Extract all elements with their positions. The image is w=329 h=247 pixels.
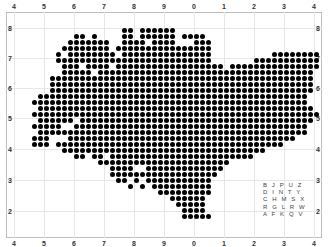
- map-dot: [152, 166, 157, 171]
- map-dot: [98, 76, 103, 81]
- map-dot: [122, 94, 127, 99]
- map-dot: [92, 40, 97, 45]
- map-dot: [188, 76, 193, 81]
- map-dot: [218, 148, 223, 153]
- left-axis-label: 7: [8, 55, 12, 62]
- map-dot: [134, 52, 139, 57]
- map-dot: [128, 160, 133, 165]
- left-axis-label: 5: [8, 115, 12, 122]
- map-dot: [194, 202, 199, 207]
- map-dot: [50, 106, 55, 111]
- map-dot: [116, 172, 121, 177]
- map-dot: [218, 82, 223, 87]
- top-axis-label: 2: [252, 3, 256, 10]
- map-dot: [182, 172, 187, 177]
- map-dot: [140, 106, 145, 111]
- map-dot: [182, 154, 187, 159]
- map-dot: [146, 172, 151, 177]
- map-dot: [116, 70, 121, 75]
- map-dot: [74, 64, 79, 69]
- map-dot: [116, 64, 121, 69]
- map-dot: [134, 100, 139, 105]
- map-dot: [116, 82, 121, 87]
- map-dot: [134, 94, 139, 99]
- map-dot: [248, 82, 253, 87]
- map-dot: [56, 88, 61, 93]
- map-dot: [86, 70, 91, 75]
- map-dot: [140, 46, 145, 51]
- map-dot: [62, 106, 67, 111]
- map-dot: [128, 70, 133, 75]
- map-dot: [284, 124, 289, 129]
- map-dot: [164, 166, 169, 171]
- dot-grid-map: 456789012344567890123487654328765432 B J…: [0, 0, 329, 247]
- map-dot: [104, 64, 109, 69]
- map-dot: [158, 148, 163, 153]
- map-dot: [92, 64, 97, 69]
- map-dot: [194, 214, 199, 219]
- top-axis-label: 0: [192, 3, 196, 10]
- map-dot: [38, 112, 43, 117]
- map-dot: [170, 130, 175, 135]
- map-dot: [164, 82, 169, 87]
- map-dot: [68, 40, 73, 45]
- left-axis-label: 4: [8, 146, 12, 153]
- map-dot: [68, 82, 73, 87]
- map-dot: [278, 124, 283, 129]
- map-dot: [242, 106, 247, 111]
- map-dot: [182, 124, 187, 129]
- map-dot: [86, 142, 91, 147]
- map-dot: [290, 88, 295, 93]
- map-dot: [170, 148, 175, 153]
- map-dot: [290, 64, 295, 69]
- map-dot: [140, 40, 145, 45]
- map-dot: [296, 82, 301, 87]
- map-dot: [110, 82, 115, 87]
- map-dot: [128, 88, 133, 93]
- map-dot: [140, 70, 145, 75]
- map-dot: [212, 160, 217, 165]
- map-dot: [146, 52, 151, 57]
- map-dot: [140, 52, 145, 57]
- map-dot: [128, 118, 133, 123]
- map-dot: [236, 76, 241, 81]
- map-dot: [206, 214, 211, 219]
- map-dot: [110, 160, 115, 165]
- map-dot: [86, 112, 91, 117]
- map-dot: [194, 40, 199, 45]
- map-dot: [68, 46, 73, 51]
- map-dot: [194, 34, 199, 39]
- map-dot: [176, 166, 181, 171]
- map-dot: [182, 148, 187, 153]
- map-dot: [212, 76, 217, 81]
- map-dot: [314, 64, 319, 69]
- map-dot: [74, 94, 79, 99]
- map-dot: [212, 124, 217, 129]
- map-dot: [284, 130, 289, 135]
- map-dot: [248, 94, 253, 99]
- map-dot: [254, 112, 259, 117]
- map-dot: [92, 154, 97, 159]
- map-dot: [56, 112, 61, 117]
- map-dot: [128, 82, 133, 87]
- map-dot: [74, 130, 79, 135]
- map-dot: [182, 214, 187, 219]
- map-dot: [56, 106, 61, 111]
- map-dot: [206, 94, 211, 99]
- map-dot: [98, 160, 103, 165]
- map-dot: [236, 94, 241, 99]
- map-dot: [188, 52, 193, 57]
- map-dot: [188, 130, 193, 135]
- map-dot: [260, 70, 265, 75]
- map-dot: [116, 124, 121, 129]
- map-dot: [194, 76, 199, 81]
- map-dot: [272, 124, 277, 129]
- map-dot: [200, 148, 205, 153]
- map-dot: [104, 52, 109, 57]
- map-dot: [86, 118, 91, 123]
- map-dot: [194, 106, 199, 111]
- map-dot: [152, 100, 157, 105]
- map-dot: [224, 106, 229, 111]
- map-dot: [212, 166, 217, 171]
- map-dot: [56, 100, 61, 105]
